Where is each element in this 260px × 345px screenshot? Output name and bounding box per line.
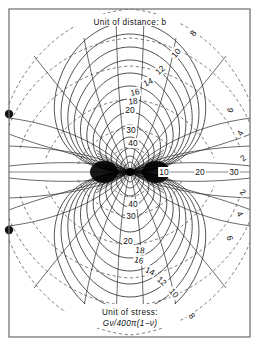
contour-label: 20 xyxy=(123,236,133,246)
caption-unit-of-stress-label: Unit of stress: xyxy=(102,308,158,317)
contour-figure: 8101214161820304064210203024640302018161… xyxy=(0,0,260,345)
contour-label: 20 xyxy=(125,105,135,115)
singularity-blot-left xyxy=(90,161,118,183)
singularity-point xyxy=(126,168,134,176)
contour-label: 40 xyxy=(128,199,138,209)
contour-plot-svg: 8101214161820304064210203024640302018161… xyxy=(0,0,260,345)
contour-label: 30 xyxy=(126,211,136,221)
contour-label: 30 xyxy=(229,167,239,177)
contour-label: 40 xyxy=(128,138,138,148)
contour-label: 20 xyxy=(195,167,205,177)
caption-unit-of-distance: Unit of distance: b xyxy=(93,18,166,27)
contour-label: 10 xyxy=(159,167,169,177)
contour-label: 30 xyxy=(126,125,136,135)
caption-unit-of-stress-formula: Gν/400π(1−ν) xyxy=(103,319,157,328)
